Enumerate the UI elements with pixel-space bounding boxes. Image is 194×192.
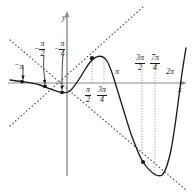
label-neg-pi-symbol: π <box>19 62 23 71</box>
dropline-group <box>92 55 155 176</box>
label-3pi-over-4: 3π 4 <box>97 86 107 104</box>
point-3pi-over-4 <box>90 56 94 60</box>
label-neg-pi-over-4: − π 4 <box>54 40 65 58</box>
label-neg-pi-over-4-fraction: π 4 <box>59 40 65 58</box>
label-neg-pi-over-2-fraction: π 2 <box>39 40 45 58</box>
label-neg-pi: −π <box>14 56 23 72</box>
label-7pi-over-4: 7π 4 <box>150 54 160 72</box>
label-7pi-over-4-numerator: 7π <box>150 54 160 62</box>
label-neg-pi-over-2-denominator: 2 <box>39 49 45 58</box>
label-3pi-over-2-fraction: 3π 2 <box>135 54 145 72</box>
label-2pi: 2π <box>166 68 174 76</box>
label-neg-pi-over-4-numerator: π <box>59 40 65 48</box>
y-axis-label: y <box>62 14 66 22</box>
label-pi-over-2: π 2 <box>85 86 91 104</box>
label-pi: π <box>115 68 119 76</box>
label-neg-pi-over-4-denominator: 4 <box>59 49 65 58</box>
label-pi-over-2-fraction: π 2 <box>85 86 91 104</box>
arrowhead-neg-pi-over-4 <box>60 86 63 91</box>
point-neg-pi <box>20 80 24 84</box>
label-3pi-over-4-denominator: 4 <box>97 95 107 104</box>
point-neg-pi-over-4 <box>60 90 64 94</box>
label-3pi-over-2-numerator: 3π <box>135 54 145 62</box>
arrowhead-neg-pi <box>21 76 24 81</box>
label-pi-over-2-denominator: 2 <box>85 95 91 104</box>
arrowhead-neg-pi-over-2 <box>43 79 46 84</box>
label-pi-over-2-numerator: π <box>85 86 91 94</box>
label-neg-pi-over-2: − π 2 <box>34 40 45 58</box>
label-3pi-over-4-numerator: 3π <box>97 86 107 94</box>
point-neg-pi-over-2 <box>43 84 47 88</box>
plot-figure: y x −π − π 2 − π 4 π 2 3π 4 π 3π 2 <box>0 0 194 192</box>
point-3pi-over-2 <box>141 160 145 164</box>
label-3pi-over-2-denominator: 2 <box>135 63 145 72</box>
x-axis-label: x <box>178 86 182 94</box>
label-7pi-over-4-denominator: 4 <box>150 63 160 72</box>
label-7pi-over-4-fraction: 7π 4 <box>150 54 160 72</box>
label-3pi-over-4-fraction: 3π 4 <box>97 86 107 104</box>
label-3pi-over-2: 3π 2 <box>135 54 145 72</box>
label-neg-pi-over-2-numerator: π <box>39 40 45 48</box>
